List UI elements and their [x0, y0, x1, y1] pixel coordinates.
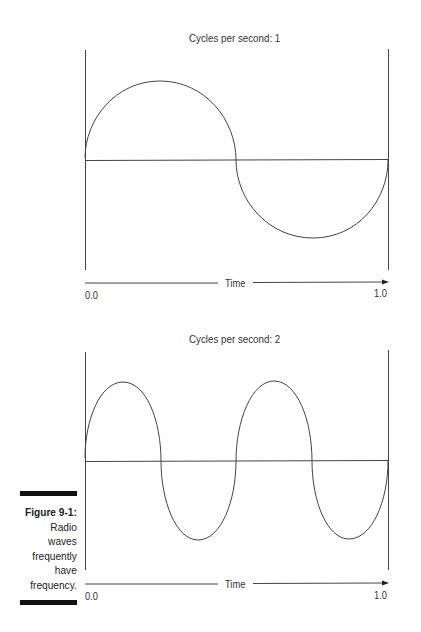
chart2-xlabel: Time [225, 578, 245, 590]
caption-bottom-rule [20, 600, 77, 605]
chart1-title: Cycles per second: 1 [189, 32, 280, 44]
chart1-time-axis-right [253, 282, 382, 283]
chart2-tick-start: 0.0 [85, 590, 98, 602]
chart2-time-axis-right [253, 583, 382, 584]
chart2-arrow-icon [382, 581, 389, 586]
chart1-xlabel: Time [225, 277, 245, 289]
chart2-title: Cycles per second: 2 [189, 333, 280, 345]
caption-top-rule [20, 491, 77, 496]
chart2-tick-end: 1.0 [374, 589, 387, 601]
caption-line: Radio [25, 520, 77, 535]
chart1-tick-end: 1.0 [374, 287, 387, 299]
caption-line: waves [25, 534, 77, 549]
caption-line: frequently [25, 549, 77, 564]
chart1-tick-start: 0.0 [85, 289, 98, 301]
figure-label: Figure 9-1: [25, 505, 77, 520]
chart1-arrow-icon [382, 280, 389, 285]
caption-line: have [25, 563, 77, 578]
figure-caption: Figure 9-1: Radio waves frequently have … [25, 505, 77, 593]
caption-line: frequency. [25, 578, 77, 593]
